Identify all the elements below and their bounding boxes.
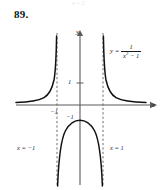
asymptote-label-right: x = 1 [110, 144, 124, 151]
equation-fraction: 1 x2 − 1 [121, 44, 141, 59]
y-axis-label: y [76, 28, 79, 36]
tick-label-x-negative-one: −1 [50, 108, 58, 115]
tick-label-y-one: 1 [68, 78, 71, 85]
x-axis-label: x [152, 101, 155, 109]
equation-lhs: y = [110, 48, 120, 55]
equation-denominator: x2 − 1 [121, 52, 141, 59]
y-axis [77, 30, 83, 185]
asymptote-label-left: x = −1 [17, 144, 35, 151]
tick-label-y-negative-one: −1 [66, 113, 74, 120]
figure-container: x = 2 89. y = 1 [0, 0, 163, 190]
graph-plot [0, 0, 163, 190]
denominator-tail: − 1 [130, 52, 139, 59]
equation-label: y = 1 x2 − 1 [110, 44, 141, 59]
denominator-exponent: 2 [126, 50, 128, 55]
equation-numerator: 1 [128, 44, 135, 51]
curve-left-branch [16, 36, 57, 103]
